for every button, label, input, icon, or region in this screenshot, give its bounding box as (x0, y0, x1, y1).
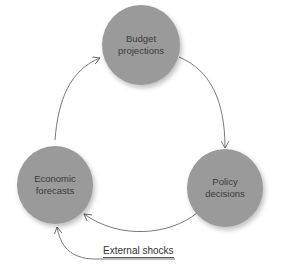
node-budget-projections: Budgetprojections (102, 5, 180, 85)
node-economic-forecasts: Economicforecasts (17, 146, 93, 224)
external-shocks-label: External shocks (103, 245, 174, 258)
arrow-economic-to-budget (55, 58, 100, 140)
node-policy-decisions: Policydecisions (187, 149, 263, 227)
arrow-policy-to-economic (84, 213, 197, 232)
cycle-diagram: Budgetprojections Policydecisions Econom… (0, 0, 281, 274)
arrow-budget-to-policy (179, 57, 225, 148)
